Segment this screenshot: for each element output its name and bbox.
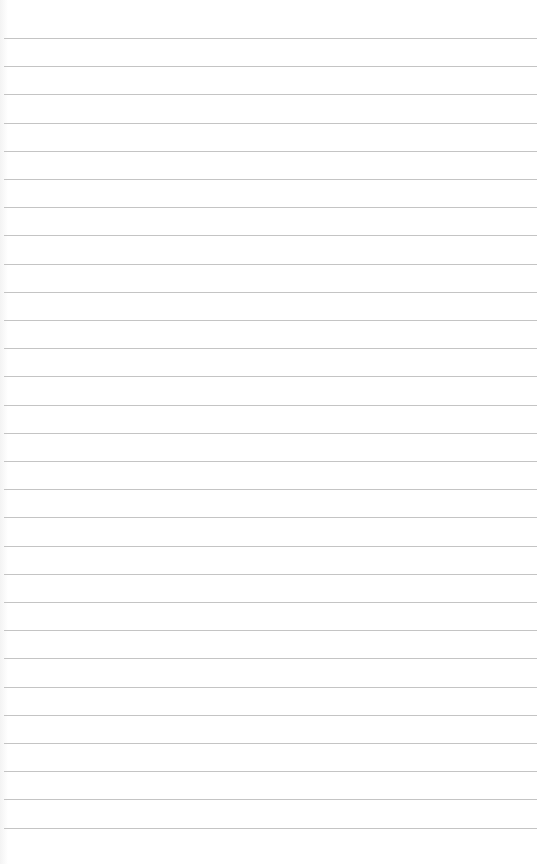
ruled-line <box>4 743 537 744</box>
ruled-line <box>4 602 537 603</box>
ruled-line <box>4 546 537 547</box>
ruled-line <box>4 320 537 321</box>
ruled-line <box>4 687 537 688</box>
ruled-line <box>4 151 537 152</box>
ruled-line <box>4 658 537 659</box>
lined-paper-sheet <box>0 0 537 864</box>
ruled-line <box>4 376 537 377</box>
ruled-line <box>4 292 537 293</box>
ruled-line <box>4 517 537 518</box>
ruled-line <box>4 235 537 236</box>
ruled-line <box>4 123 537 124</box>
ruled-line <box>4 574 537 575</box>
ruled-line <box>4 348 537 349</box>
ruled-line <box>4 828 537 829</box>
ruled-line <box>4 405 537 406</box>
ruled-line <box>4 715 537 716</box>
ruled-line <box>4 489 537 490</box>
ruled-line <box>4 771 537 772</box>
ruled-line <box>4 94 537 95</box>
ruled-line <box>4 207 537 208</box>
ruled-line <box>4 264 537 265</box>
ruled-line <box>4 38 537 39</box>
ruled-line <box>4 179 537 180</box>
ruled-line <box>4 66 537 67</box>
ruled-line <box>4 630 537 631</box>
ruled-line <box>4 799 537 800</box>
ruled-line <box>4 433 537 434</box>
ruled-line <box>4 461 537 462</box>
